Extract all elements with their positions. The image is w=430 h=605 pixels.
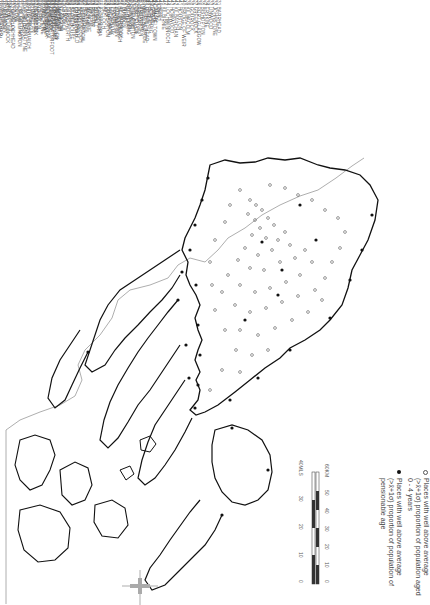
scale-miles-20: 20 bbox=[298, 524, 304, 530]
place-list-item: 116 ARROCHAR bbox=[0, 0, 2, 230]
place-list-item: 35 BISHOPTON bbox=[200, 0, 204, 230]
place-list-item: 36 PORT GLASGOW bbox=[197, 0, 201, 230]
coastline-kintyre bbox=[145, 500, 222, 590]
place-list-item: 104 LOCHRANZA bbox=[45, 0, 49, 230]
place-list-2: 31 BARRHEAD32 JOHNSTONE33 LINWOOD34 ERSK… bbox=[160, 0, 220, 230]
place-list-item: 91 CARSTAIRS bbox=[96, 0, 100, 230]
island-large bbox=[212, 425, 272, 505]
scale-km-40: 40 bbox=[324, 508, 330, 514]
island-small-1 bbox=[140, 436, 156, 452]
scale-km-10: 10 bbox=[324, 562, 330, 568]
place-list-item: 54 KILWINNING bbox=[126, 0, 130, 230]
place-list-item: 48 LARGS bbox=[150, 0, 154, 230]
island-west-3 bbox=[18, 505, 70, 562]
place-list-item: 56 KILMARNOCK bbox=[118, 0, 122, 230]
open-circle-icon bbox=[423, 470, 428, 475]
place-list-item: 57 STEWARTON bbox=[115, 0, 119, 230]
filled-circle-icon bbox=[397, 470, 401, 474]
coastline-peninsula-1 bbox=[85, 250, 180, 372]
place-list-item: 95 LESMAHAGOW bbox=[80, 0, 84, 230]
legend: Places with well above average (>x̄+1σ) … bbox=[360, 470, 430, 600]
place-list-item: 47 DALRY bbox=[154, 0, 158, 230]
scale-km-50: 50 bbox=[324, 490, 330, 496]
place-list-item: 42 KILBARCHAN bbox=[173, 0, 177, 230]
scale-miles-30: 30 bbox=[298, 496, 304, 502]
place-list-item: 92 FORTH bbox=[92, 0, 96, 230]
place-list-item: 107 SANDBANK bbox=[34, 0, 38, 230]
scale-km-30: 30 bbox=[324, 526, 330, 532]
place-list-item: 44 LOCHWINNOCH bbox=[165, 0, 169, 230]
island-west-4 bbox=[94, 500, 128, 538]
place-list-item: 106 KIRN bbox=[38, 0, 42, 230]
place-list-item: 59 PRESTWICK bbox=[107, 0, 111, 230]
legend-item-pensionable: Places with well above average (>x̄+1σ) … bbox=[379, 470, 403, 600]
place-list-item: 111 KILCREGGAN bbox=[18, 0, 22, 230]
scale-miles-10: 10 bbox=[298, 552, 304, 558]
scale-miles-0: 0 bbox=[298, 580, 304, 583]
island-west-1 bbox=[15, 435, 55, 490]
place-list-item: 51 ARDROSSAN bbox=[138, 0, 142, 230]
scale-miles-40: 40MLS bbox=[298, 460, 304, 476]
scale-km-0: 0 bbox=[324, 580, 330, 583]
place-list-item: 40 BRIDGE OF WEIR bbox=[181, 0, 185, 230]
place-list-item: 46 BEITH bbox=[158, 0, 162, 230]
place-list-item: 99 LARGS NORTH bbox=[65, 0, 69, 230]
scale-km-60: 60KM bbox=[324, 464, 330, 477]
north-arrow-icon bbox=[122, 570, 158, 605]
place-list-item: 93 SHOTTS bbox=[88, 0, 92, 230]
place-list-item: 32 JOHNSTONE bbox=[212, 0, 216, 230]
place-list-item: 113 GARELOCHHEAD bbox=[10, 0, 14, 230]
place-list-4: 91 CARSTAIRS92 FORTH93 SHOTTS94 HARTHILL… bbox=[40, 0, 100, 230]
island-small-2 bbox=[120, 466, 134, 480]
coastline-peninsula-4 bbox=[48, 330, 88, 408]
legend-item-young: Places with well above average (>x̄+1σ) … bbox=[406, 470, 430, 600]
scale-labels: 0 10 20 30 40MLS 0 10 20 30 40 50 60KM bbox=[300, 468, 340, 588]
scale-km-20: 20 bbox=[324, 544, 330, 550]
island-west-2 bbox=[60, 462, 92, 505]
